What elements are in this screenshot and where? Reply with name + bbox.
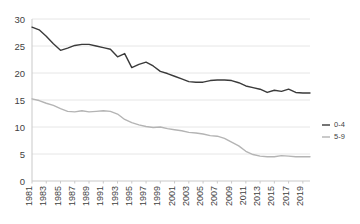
x-axis-tick-label: 1995 <box>124 186 134 206</box>
y-axis-tick-label: 0 <box>20 176 25 187</box>
x-axis-tick-label: 1987 <box>67 186 77 206</box>
x-axis-tick-label: 1985 <box>53 186 63 206</box>
y-axis-tick-labels: 051015202530 <box>14 14 25 187</box>
x-axis-tick-label: 2019 <box>295 186 305 206</box>
x-axis-tick-label: 1981 <box>24 186 34 206</box>
x-axis-tick-label: 2009 <box>224 186 234 206</box>
data-series-group <box>32 27 310 157</box>
x-axis-tick-label: 2013 <box>252 186 262 206</box>
y-axis-tick-label: 5 <box>20 149 25 160</box>
y-axis-tick-label: 15 <box>14 95 25 106</box>
x-axis-tick-label: 2003 <box>181 186 191 206</box>
series-line-5-9 <box>32 99 310 157</box>
x-axis-tick-label: 2017 <box>281 186 291 206</box>
x-axis-tick-label: 2005 <box>195 186 205 206</box>
x-axis-tick-labels: 1981198319851987198919911993199519971999… <box>24 181 305 206</box>
y-axis-tick-label: 10 <box>14 122 25 133</box>
x-axis-tick-label: 1997 <box>138 186 148 206</box>
x-axis-tick-label: 1983 <box>38 186 48 206</box>
x-axis-tick-label: 1991 <box>95 186 105 206</box>
y-axis-tick-label: 25 <box>14 41 25 52</box>
x-axis-tick-label: 1989 <box>81 186 91 206</box>
line-chart: 051015202530 198119831985198719891991199… <box>0 0 360 224</box>
x-axis-tick-label: 2015 <box>266 186 276 206</box>
x-axis-tick-label: 1999 <box>152 186 162 206</box>
x-axis-tick-label: 2001 <box>167 186 177 206</box>
x-axis-tick-label: 1993 <box>110 186 120 206</box>
chart-canvas: 051015202530 198119831985198719891991199… <box>0 0 360 224</box>
x-axis-tick-label: 2011 <box>238 186 248 205</box>
chart-legend: 0-45-9 <box>322 120 345 141</box>
y-axis-tick-label: 20 <box>14 68 25 79</box>
legend-label-0-4: 0-4 <box>334 120 345 129</box>
x-axis-tick-label: 2007 <box>209 186 219 206</box>
series-line-0-4 <box>32 27 310 93</box>
y-axis-tick-label: 30 <box>14 14 25 25</box>
legend-label-5-9: 5-9 <box>334 132 345 141</box>
